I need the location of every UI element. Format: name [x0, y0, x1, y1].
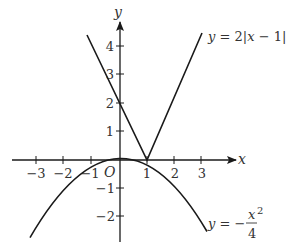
svg-text:y = −: y = −	[207, 216, 245, 231]
x-tick-label: 3	[198, 166, 206, 181]
abs-value-curve	[87, 33, 202, 160]
y-tick-label: −2	[96, 209, 115, 224]
graph-figure: −3 −2 −1 1 2 3 4 3 2 1 −1 −2 x y O y = 2…	[0, 0, 292, 246]
svg-text:2: 2	[257, 205, 263, 216]
svg-text:x: x	[248, 207, 256, 222]
x-tick-label: 2	[171, 166, 179, 181]
y-tick-label: 1	[106, 124, 114, 139]
x-tick-label: 1	[143, 166, 151, 181]
x-tick-label: −3	[26, 166, 45, 181]
x-tick-label: −2	[53, 166, 72, 181]
x-axis-label: x	[238, 151, 246, 167]
parabola-equation-label: y = − x 2 4	[207, 205, 263, 241]
origin-label: O	[104, 164, 116, 180]
y-tick-label: 2	[106, 96, 114, 111]
y-tick-label: 3	[106, 67, 114, 82]
y-axis-label: y	[113, 4, 123, 20]
y-tick-label: −1	[96, 181, 115, 196]
y-tick-label: 4	[106, 39, 114, 54]
abs-equation-label: y = 2|x − 1|	[207, 29, 286, 44]
svg-text:4: 4	[248, 226, 256, 241]
